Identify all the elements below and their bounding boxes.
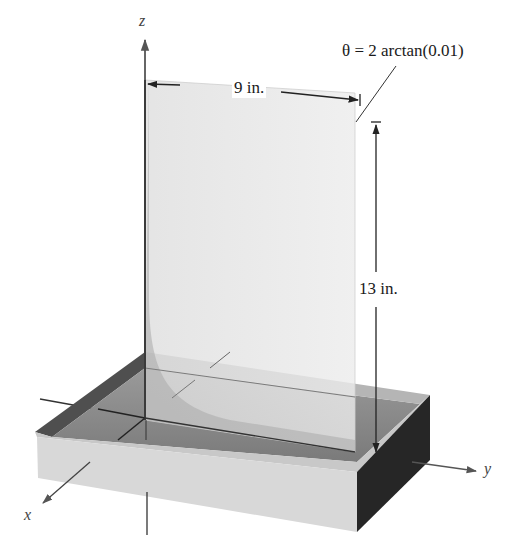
width-dimension-label: 9 in. [232, 78, 266, 98]
z-axis-label: z [139, 12, 145, 30]
plate [145, 80, 355, 452]
x-axis-label: x [24, 506, 31, 524]
y-axis-label: y [484, 460, 491, 478]
angle-leader-line [356, 66, 396, 122]
plate-in-tray-figure: z x y 9 in. 13 in. θ = 2 arctan(0.01) [0, 0, 511, 559]
height-dimension-label: 13 in. [357, 279, 400, 299]
angle-annotation: θ = 2 arctan(0.01) [340, 41, 466, 61]
